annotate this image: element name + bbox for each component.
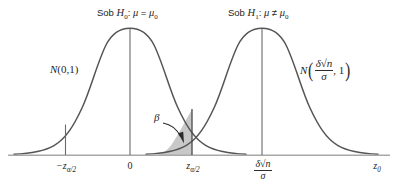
tick-delta-fraction: δ√nσ (254, 159, 271, 181)
alt-hyp-mu: μ (264, 7, 269, 18)
alt-hyp-target-sub: 0 (285, 13, 289, 21)
alt-dist-paren-open: ( (308, 59, 313, 81)
beta-label: β (154, 112, 159, 123)
tick-label-zero: 0 (117, 161, 143, 171)
tick-label-delta-sqrt-n-over-sigma: δ√nσ (243, 159, 283, 181)
null-hyp-target-sub: 0 (154, 13, 158, 21)
alt-hyp-relation: ≠ (272, 7, 277, 18)
null-hyp-symbol: H (117, 7, 125, 18)
statistics-figure: Sob H0: μ = μ0 Sob H1: μ ≠ μ0 N(0,1) N(δ… (0, 0, 393, 195)
alt-dist-fraction: δ√nσ (315, 58, 334, 82)
null-dist-args: (0,1) (57, 63, 78, 75)
tick-neg-z-base: −z (56, 160, 67, 171)
tick-delta-denominator: σ (254, 171, 271, 182)
alt-dist-second-arg: 1 (339, 65, 345, 76)
null-distribution-label: N(0,1) (50, 64, 78, 75)
tick-neg-z-sub: α/2 (67, 166, 76, 174)
alt-hyp-colon: : (259, 7, 262, 18)
alt-dist-numerator: δ√n (315, 58, 334, 71)
alt-dist-denominator: σ (315, 71, 334, 83)
tick-label-neg-z-alpha-half: −zα/2 (45, 161, 87, 174)
x-axis-label: z0 (366, 161, 388, 174)
tick-delta-numerator: δ√n (254, 159, 271, 171)
tick-label-z-alpha-half: zα/2 (173, 161, 213, 174)
alt-distribution-label: N(δ√nσ, 1) (300, 58, 352, 82)
null-hyp-colon: : (128, 7, 131, 18)
tick-zero-base: 0 (128, 160, 133, 171)
null-hyp-prefix: Sob (97, 7, 114, 18)
beta-leader-arrow (163, 123, 181, 137)
alt-hyp-prefix: Sob (228, 7, 245, 18)
beta-symbol: β (154, 111, 159, 123)
null-hyp-relation: = (141, 7, 147, 18)
alt-hyp-symbol: H (248, 7, 256, 18)
null-hyp-mu: μ (133, 7, 138, 18)
alt-dist-paren-close: ) (345, 59, 350, 81)
alt-hypothesis-label: Sob H1: μ ≠ μ0 (228, 8, 288, 21)
null-hypothesis-label: Sob H0: μ = μ0 (97, 8, 158, 21)
tick-z-sub: α/2 (190, 166, 199, 174)
alt-dist-N: N (300, 65, 307, 76)
x-axis-label-sub: 0 (377, 166, 381, 174)
